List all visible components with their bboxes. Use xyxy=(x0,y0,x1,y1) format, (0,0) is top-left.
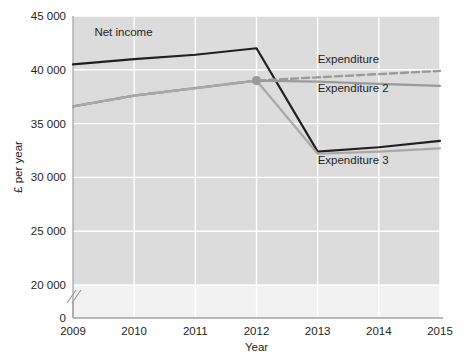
series-label-net-income: Net income xyxy=(94,26,152,38)
x-tick-label-2011: 2011 xyxy=(183,325,208,337)
line-chart: 20 00025 00030 00035 00040 00045 0000 20… xyxy=(0,0,464,364)
y-axis-title: £ per year xyxy=(12,141,24,193)
series-label-expenditure-3: Expenditure 3 xyxy=(318,154,389,166)
y-tick-label-20000: 20 000 xyxy=(31,279,66,291)
x-tick-label-2010: 2010 xyxy=(121,325,147,337)
x-axis-title: Year xyxy=(245,341,268,353)
x-tick-label-2013: 2013 xyxy=(305,325,331,337)
y-tick-label-35000: 35 000 xyxy=(31,118,66,130)
y-tick-label-40000: 40 000 xyxy=(31,64,66,76)
x-tick-label-2012: 2012 xyxy=(244,325,270,337)
y-tick-label-zero: 0 xyxy=(60,312,66,324)
marker-2012-dot xyxy=(252,76,261,85)
series-label-expenditure: Expenditure xyxy=(318,53,379,65)
x-tick-label-2009: 2009 xyxy=(60,325,86,337)
y-tick-label-25000: 25 000 xyxy=(31,225,66,237)
series-label-expenditure-2: Expenditure 2 xyxy=(318,82,389,94)
y-tick-label-45000: 45 000 xyxy=(31,10,66,22)
data-point-marker xyxy=(252,76,261,85)
y-tick-label-30000: 30 000 xyxy=(31,171,66,183)
chart-container: 20 00025 00030 00035 00040 00045 0000 20… xyxy=(0,0,464,364)
x-tick-label-2014: 2014 xyxy=(366,325,392,337)
x-tick-label-2015: 2015 xyxy=(427,325,453,337)
